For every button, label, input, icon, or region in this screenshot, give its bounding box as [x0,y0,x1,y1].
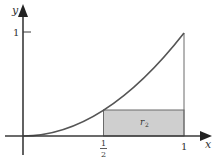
x-axis-label: x [205,138,212,151]
y-axis-arrow-icon [18,4,28,17]
x-tick-label-one: 1 [181,141,187,152]
y-axis-label: y [11,4,19,17]
x-tick-label-half-denominator: 2 [101,150,106,159]
region-label-subscript: 2 [145,121,149,128]
x-tick-label-half-numerator: 1 [101,139,106,148]
function-diagram: y 1 x 1 1 2 r 2 [0,0,214,159]
y-tick-label-one: 1 [13,27,19,38]
